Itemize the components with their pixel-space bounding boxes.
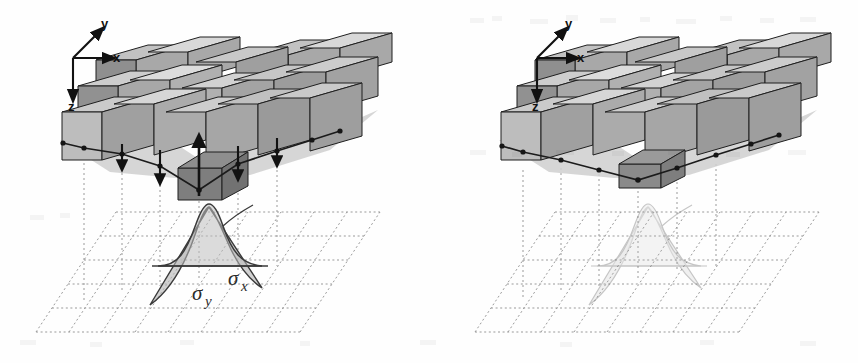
x-axis-label: x: [577, 50, 585, 65]
svg-text:σ: σ: [228, 266, 240, 290]
x-axis-label: x: [113, 50, 121, 65]
y-axis-label: y: [565, 16, 573, 31]
y-axis-label: y: [101, 16, 109, 31]
gaussian-sigma-x-curve: [158, 204, 262, 266]
panel-right-graphic: x y z: [429, 0, 858, 363]
svg-text:x: x: [240, 278, 248, 294]
sigma-y-label: σ y: [192, 281, 212, 309]
figure-root: σ x σ y x y z: [0, 0, 858, 363]
gaussian-kernels-faded: [589, 204, 707, 305]
gaussian-sigma-x-curve: [597, 204, 701, 266]
gaussian-kernels: [150, 204, 268, 305]
voxel-surface-slab: [62, 33, 392, 200]
panel-left-graphic: σ x σ y x y z: [0, 0, 429, 363]
panel-before-smoothing: σ x σ y x y z: [0, 0, 429, 363]
y-axis-arrow: [73, 31, 100, 58]
svg-text:σ: σ: [192, 281, 204, 305]
svg-text:y: y: [203, 293, 212, 309]
z-axis-label: z: [68, 99, 75, 114]
z-axis-label: z: [532, 99, 539, 114]
panel-after-smoothing: x y z: [429, 0, 858, 363]
